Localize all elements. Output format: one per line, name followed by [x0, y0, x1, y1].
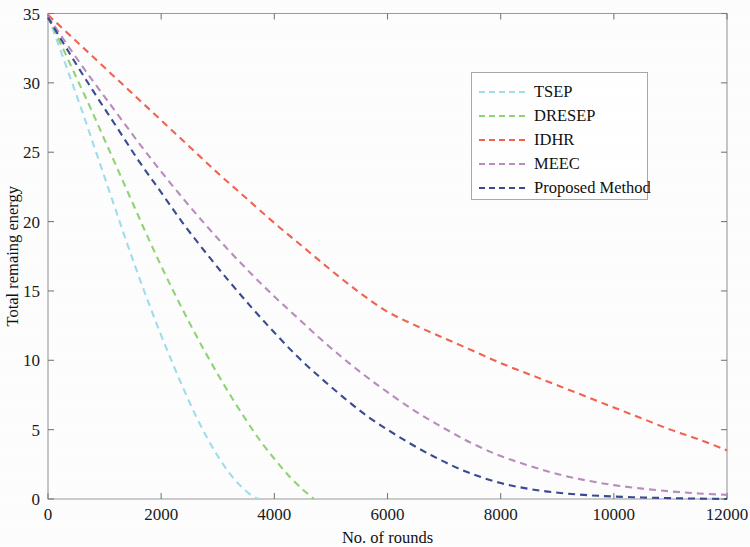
legend-label: Proposed Method: [534, 180, 651, 197]
legend-swatch-icon: [479, 115, 525, 117]
y-tick-label: 10: [23, 351, 40, 370]
y-tick-label: 25: [23, 143, 40, 162]
legend-swatch-icon: [479, 187, 525, 189]
legend-label: TSEP: [534, 84, 573, 101]
x-tick-label: 0: [44, 505, 53, 524]
legend-label: DRESEP: [534, 108, 595, 125]
figure-canvas: 020004000600080001000012000 051015202530…: [0, 0, 750, 547]
chart-legend: TSEPDRESEPIDHRMEECProposed Method: [471, 72, 648, 200]
x-tick-labels: 020004000600080001000012000: [44, 505, 749, 524]
series-line-tsep: [48, 16, 258, 499]
y-tick-labels: 05101520253035: [23, 5, 40, 510]
y-tick-label: 0: [32, 490, 41, 509]
x-tick-label: 8000: [484, 505, 518, 524]
legend-swatch-icon: [479, 163, 525, 165]
y-tick-label: 5: [32, 421, 41, 440]
x-tick-label: 12000: [706, 505, 749, 524]
legend-entry-proposed-method[interactable]: Proposed Method: [479, 177, 651, 199]
legend-entry-idhr[interactable]: IDHR: [479, 129, 574, 151]
legend-label: IDHR: [534, 132, 574, 149]
series-line-dresep: [48, 16, 314, 499]
x-tick-label: 6000: [371, 505, 405, 524]
legend-entry-tsep[interactable]: TSEP: [479, 81, 573, 103]
y-tick-label: 30: [23, 74, 40, 93]
y-axis-title: Total remaing energy: [3, 185, 22, 326]
legend-entry-dresep[interactable]: DRESEP: [479, 105, 595, 127]
legend-entry-meec[interactable]: MEEC: [479, 153, 580, 175]
x-axis-title: No. of rounds: [342, 528, 433, 547]
legend-label: MEEC: [534, 156, 580, 173]
x-tick-label: 2000: [144, 505, 178, 524]
legend-swatch-icon: [479, 139, 525, 141]
y-tick-label: 15: [23, 282, 40, 301]
x-tick-label: 10000: [593, 505, 636, 524]
legend-swatch-icon: [479, 91, 525, 93]
y-tick-label: 35: [23, 5, 40, 24]
x-tick-label: 4000: [257, 505, 291, 524]
y-tick-label: 20: [23, 213, 40, 232]
